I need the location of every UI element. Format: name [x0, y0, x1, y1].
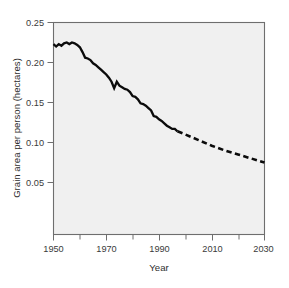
x-tick-label-2010: 2010 — [202, 244, 222, 254]
x-axis-ticks — [54, 235, 265, 241]
y-tick-label-0.05: 0.05 — [26, 178, 44, 188]
x-tick-label-1970: 1970 — [96, 244, 116, 254]
line-chart: 0.25 0.20 0.15 0.10 0.05 1950 1970 1990 … — [0, 0, 289, 288]
y-tick-label-0.10: 0.10 — [26, 138, 44, 148]
x-axis-title: Year — [149, 262, 169, 273]
y-axis-tick-labels: 0.25 0.20 0.15 0.10 0.05 — [26, 18, 44, 188]
y-tick-label-0.25: 0.25 — [26, 18, 44, 28]
x-tick-label-2030: 2030 — [253, 244, 273, 254]
x-axis-tick-labels: 1950 1970 1990 2010 2030 — [43, 244, 273, 254]
x-tick-label-1990: 1990 — [149, 244, 169, 254]
chart-figure: 0.25 0.20 0.15 0.10 0.05 1950 1970 1990 … — [0, 0, 289, 288]
y-tick-label-0.15: 0.15 — [26, 98, 44, 108]
x-tick-label-1950: 1950 — [43, 244, 63, 254]
plot-area-frame — [54, 23, 265, 235]
y-axis-ticks — [48, 23, 54, 183]
y-tick-label-0.20: 0.20 — [26, 58, 44, 68]
y-axis-title: Grain area per person (hectares) — [11, 58, 22, 198]
